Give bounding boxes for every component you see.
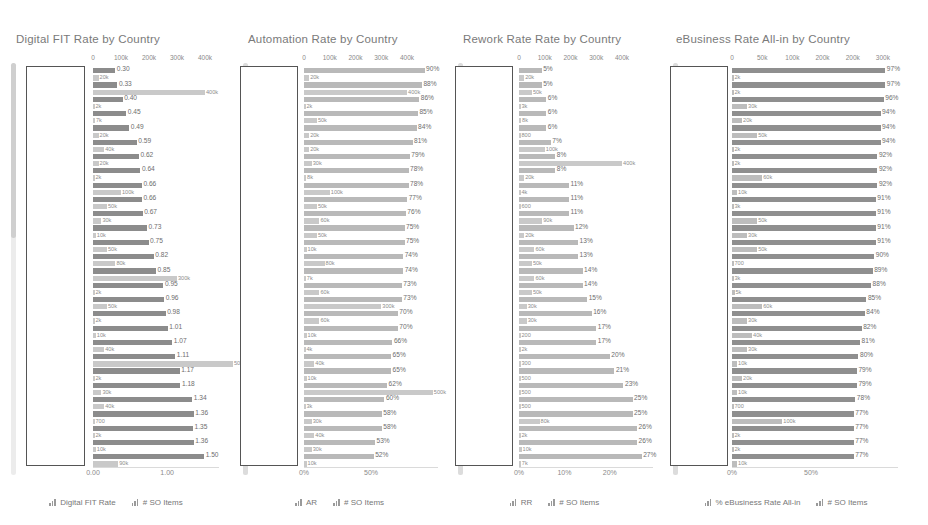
bar-primary[interactable] (732, 383, 857, 388)
legend-item-secondary[interactable]: # SO Items (816, 498, 867, 507)
bar-primary[interactable] (519, 183, 569, 188)
bar-primary[interactable] (304, 140, 413, 145)
bar-primary[interactable] (732, 168, 877, 173)
bar-primary[interactable] (519, 368, 614, 373)
bar-primary[interactable] (93, 440, 194, 445)
bar-primary[interactable] (93, 254, 154, 259)
bar-primary[interactable] (732, 354, 858, 359)
legend-item-secondary[interactable]: # SO Items (132, 498, 183, 507)
bar-primary[interactable] (304, 440, 375, 445)
scrollbar-thumb[interactable] (11, 63, 16, 238)
bar-primary[interactable] (732, 183, 877, 188)
bar-primary[interactable] (732, 82, 885, 87)
legend-item-secondary[interactable]: # SO Items (333, 498, 384, 507)
bar-primary[interactable] (93, 240, 149, 245)
legend-item-primary[interactable]: Digital FIT Rate (49, 498, 115, 507)
bar-primary[interactable] (93, 340, 172, 345)
bar-primary[interactable] (304, 426, 382, 431)
bar-primary[interactable] (519, 326, 596, 331)
bar-primary[interactable] (304, 254, 403, 259)
bar-primary[interactable] (304, 368, 391, 373)
bar-primary[interactable] (304, 283, 402, 288)
bar-primary[interactable] (519, 225, 574, 230)
bar-primary[interactable] (519, 311, 592, 316)
bar-primary[interactable] (304, 340, 392, 345)
bar-primary[interactable] (519, 168, 555, 173)
legend-item-primary[interactable]: % eBusiness Rate All-in (705, 498, 801, 507)
bar-primary[interactable] (519, 383, 623, 388)
bar-primary[interactable] (93, 97, 123, 102)
bar-primary[interactable] (93, 197, 142, 202)
vertical-scrollbar-1[interactable] (11, 63, 16, 475)
bar-primary[interactable] (304, 297, 402, 302)
bar-primary[interactable] (304, 97, 419, 102)
bar-primary[interactable] (732, 254, 874, 259)
bar-primary[interactable] (93, 82, 117, 87)
bar-primary[interactable] (732, 240, 876, 245)
bar-primary[interactable] (93, 283, 163, 288)
bar-primary[interactable] (304, 268, 403, 273)
bar-primary[interactable] (93, 268, 156, 273)
bar-secondary[interactable] (732, 461, 737, 466)
bar-primary[interactable] (304, 111, 418, 116)
legend-item-primary[interactable]: AR (295, 498, 317, 507)
bar-primary[interactable] (93, 354, 175, 359)
bar-primary[interactable] (304, 211, 406, 216)
bar-primary[interactable] (732, 97, 884, 102)
bar-primary[interactable] (93, 311, 166, 316)
bar-primary[interactable] (732, 225, 876, 230)
bar-primary[interactable] (304, 125, 417, 130)
bar-primary[interactable] (304, 240, 405, 245)
bar-primary[interactable] (93, 426, 193, 431)
bar-primary[interactable] (304, 326, 398, 331)
bar-primary[interactable] (304, 454, 374, 459)
bar-primary[interactable] (519, 454, 642, 459)
bar-primary[interactable] (519, 197, 569, 202)
bar-primary[interactable] (519, 426, 637, 431)
bar-primary[interactable] (732, 211, 876, 216)
bar-primary[interactable] (732, 197, 876, 202)
bar-primary[interactable] (93, 397, 192, 402)
bar-primary[interactable] (93, 326, 168, 331)
bar-primary[interactable] (732, 454, 854, 459)
bar-primary[interactable] (519, 111, 546, 116)
bar-primary[interactable] (519, 411, 633, 416)
bar-primary[interactable] (519, 297, 587, 302)
bar-primary[interactable] (732, 140, 881, 145)
bar-secondary[interactable] (93, 461, 118, 466)
bar-primary[interactable] (519, 97, 546, 102)
bar-primary[interactable] (732, 125, 881, 130)
bar-primary[interactable] (519, 340, 596, 345)
bar-primary[interactable] (304, 354, 391, 359)
bar-primary[interactable] (732, 326, 862, 331)
bar-primary[interactable] (519, 154, 555, 159)
legend-item-primary[interactable]: RR (510, 498, 533, 507)
bar-primary[interactable] (304, 168, 409, 173)
bar-primary[interactable] (93, 168, 140, 173)
bar-primary[interactable] (93, 68, 115, 73)
bar-primary[interactable] (93, 154, 139, 159)
bar-primary[interactable] (304, 68, 425, 73)
bar-primary[interactable] (93, 125, 129, 130)
bar-primary[interactable] (732, 297, 866, 302)
bar-primary[interactable] (732, 411, 854, 416)
bar-primary[interactable] (519, 268, 583, 273)
bar-primary[interactable] (519, 82, 542, 87)
bar-primary[interactable] (93, 297, 164, 302)
bar-primary[interactable] (519, 211, 569, 216)
bar-secondary[interactable] (304, 461, 307, 466)
bar-primary[interactable] (93, 383, 180, 388)
bar-primary[interactable] (732, 283, 871, 288)
bar-primary[interactable] (304, 397, 384, 402)
bar-primary[interactable] (732, 111, 881, 116)
bar-primary[interactable] (732, 368, 857, 373)
bar-primary[interactable] (519, 283, 583, 288)
bar-primary[interactable] (304, 225, 405, 230)
bar-primary[interactable] (304, 154, 410, 159)
bar-primary[interactable] (93, 211, 143, 216)
bar-primary[interactable] (732, 154, 877, 159)
bar-primary[interactable] (519, 68, 542, 73)
bar-primary[interactable] (304, 411, 382, 416)
bar-primary[interactable] (93, 368, 180, 373)
legend-item-secondary[interactable]: # SO Items (548, 498, 599, 507)
